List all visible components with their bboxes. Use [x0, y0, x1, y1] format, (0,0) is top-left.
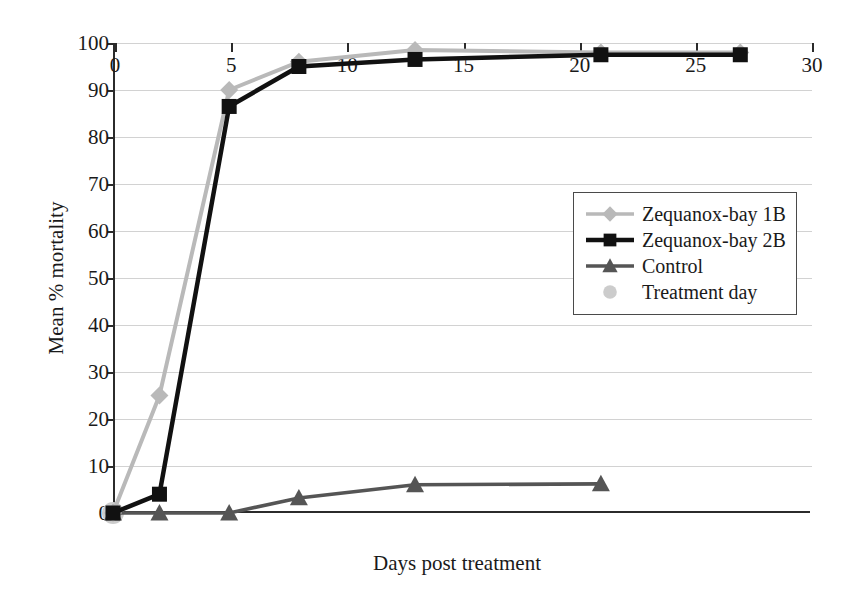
x-tick-label: 30 [802, 55, 823, 76]
gridline [115, 466, 812, 467]
x-tick-label: 15 [453, 55, 474, 76]
x-axis-title: Days post treatment [0, 551, 862, 576]
circle-marker [584, 281, 636, 303]
square-marker [584, 229, 636, 251]
legend-label: Zequanox-bay 2B [642, 230, 786, 250]
legend-marker [604, 234, 617, 247]
y-tick-label: 60 [88, 221, 109, 242]
y-tick-label: 30 [88, 362, 109, 383]
x-tick-mark [464, 43, 466, 52]
gridline [115, 90, 812, 91]
y-tick-label: 10 [88, 456, 109, 477]
x-tick-mark [115, 43, 117, 52]
gridline [115, 137, 812, 138]
y-tick-label: 20 [88, 409, 109, 430]
x-tick-label: 0 [110, 55, 121, 76]
legend-item-0: Zequanox-bay 1B [584, 201, 786, 227]
x-tick-label: 25 [685, 55, 706, 76]
y-axis-title: Mean % mortality [44, 43, 69, 513]
legend-marker [603, 285, 617, 299]
legend-item-2: Control [584, 253, 786, 279]
gridline [115, 419, 812, 420]
x-tick-mark [580, 43, 582, 52]
x-axis-title-text: Days post treatment [373, 551, 541, 575]
y-tick-label: 100 [78, 33, 110, 54]
gridline [115, 372, 812, 373]
y-tick-label: 50 [88, 268, 109, 289]
x-tick-label: 5 [226, 55, 237, 76]
gridline [115, 325, 812, 326]
x-tick-mark [812, 43, 814, 52]
y-tick-label: 0 [99, 503, 110, 524]
legend-item-1: Zequanox-bay 2B [584, 227, 786, 253]
legend-label: Zequanox-bay 1B [642, 204, 786, 224]
x-tick-mark [696, 43, 698, 52]
legend-label: Treatment day [642, 282, 757, 302]
y-tick-label: 70 [88, 174, 109, 195]
x-tick-mark [347, 43, 349, 52]
legend-item-3: Treatment day [584, 279, 786, 305]
x-tick-label: 10 [337, 55, 358, 76]
y-tick-label: 90 [88, 80, 109, 101]
diamond-marker [584, 203, 636, 225]
legend-marker [602, 206, 617, 221]
y-tick-label: 80 [88, 127, 109, 148]
triangle-marker [584, 255, 636, 277]
chart-legend: Zequanox-bay 1BZequanox-bay 2BControlTre… [573, 192, 797, 315]
mortality-line-chart: 0102030405060708090100051015202530 Days … [0, 0, 862, 598]
legend-label: Control [642, 256, 703, 276]
gridline [115, 184, 812, 185]
y-tick-label: 40 [88, 315, 109, 336]
x-tick-label: 20 [569, 55, 590, 76]
x-tick-mark [231, 43, 233, 52]
